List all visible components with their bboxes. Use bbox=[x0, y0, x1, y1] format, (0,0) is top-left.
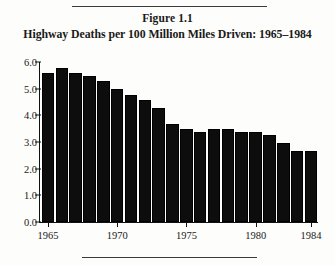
x-tick-mark bbox=[186, 222, 187, 227]
bar-cell bbox=[249, 62, 263, 222]
bar-cell bbox=[263, 62, 277, 222]
figure-title: Highway Deaths per 100 Million Miles Dri… bbox=[0, 27, 335, 42]
x-axis bbox=[39, 222, 318, 223]
bar-cell bbox=[55, 62, 69, 222]
x-tick-label: 1970 bbox=[107, 230, 128, 241]
bar bbox=[69, 73, 82, 222]
bar bbox=[56, 68, 69, 222]
x-tick-mark bbox=[311, 222, 312, 227]
bar-cell bbox=[290, 62, 304, 222]
y-tick-mark bbox=[35, 62, 41, 63]
y-tick-mark bbox=[35, 115, 41, 116]
bar bbox=[42, 73, 55, 222]
top-rule bbox=[72, 6, 267, 7]
figure-page: Figure 1.1 Highway Deaths per 100 Millio… bbox=[0, 0, 335, 265]
bar bbox=[291, 151, 304, 222]
bar-cell bbox=[179, 62, 193, 222]
x-tick-label: 1975 bbox=[176, 230, 197, 241]
bottom-rule bbox=[82, 257, 257, 258]
bar-cell bbox=[235, 62, 249, 222]
y-tick-mark bbox=[35, 88, 41, 89]
x-tick-label: 1965 bbox=[37, 230, 58, 241]
x-tick-mark bbox=[48, 222, 49, 227]
bar bbox=[263, 135, 276, 222]
bar bbox=[208, 129, 221, 222]
figure-number: Figure 1.1 bbox=[0, 12, 335, 24]
bar bbox=[152, 108, 165, 222]
bar-cell bbox=[96, 62, 110, 222]
bar bbox=[166, 124, 179, 222]
bar-cell bbox=[152, 62, 166, 222]
bar-cell bbox=[138, 62, 152, 222]
y-tick-mark bbox=[35, 168, 41, 169]
bar-cell bbox=[166, 62, 180, 222]
bar-cell bbox=[69, 62, 83, 222]
x-tick-label: 1980 bbox=[245, 230, 266, 241]
bar-series bbox=[41, 62, 318, 222]
bar bbox=[111, 89, 124, 222]
y-tick-mark bbox=[35, 222, 41, 223]
y-tick-mark bbox=[35, 142, 41, 143]
bar-cell bbox=[41, 62, 55, 222]
bar bbox=[180, 129, 193, 222]
bar bbox=[83, 76, 96, 222]
bar bbox=[305, 151, 318, 222]
y-tick-mark bbox=[35, 195, 41, 196]
bar bbox=[97, 81, 110, 222]
bar bbox=[125, 95, 138, 222]
bar-cell bbox=[276, 62, 290, 222]
bar-cell bbox=[193, 62, 207, 222]
x-tick-mark bbox=[117, 222, 118, 227]
bar-cell bbox=[110, 62, 124, 222]
bar-cell bbox=[83, 62, 97, 222]
x-tick-mark bbox=[256, 222, 257, 227]
bar-cell bbox=[207, 62, 221, 222]
bar bbox=[249, 132, 262, 222]
x-tick-label: 1984 bbox=[301, 230, 322, 241]
bar-cell bbox=[304, 62, 318, 222]
chart-plot-area: 0.01.02.03.04.05.06.0 196519701975198019… bbox=[41, 62, 318, 222]
bar bbox=[277, 143, 290, 222]
bar-cell bbox=[221, 62, 235, 222]
bar bbox=[194, 132, 207, 222]
bar bbox=[235, 132, 248, 222]
bar-cell bbox=[124, 62, 138, 222]
bar bbox=[222, 129, 235, 222]
bar bbox=[139, 100, 152, 222]
